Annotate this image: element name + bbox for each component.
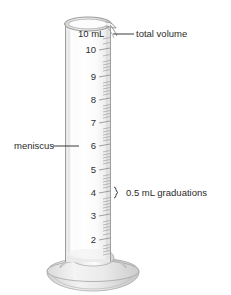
annotation-total-volume: total volume — [136, 29, 187, 39]
grad-label-8: 8 — [74, 95, 96, 105]
grad-label-9: 9 — [74, 72, 96, 82]
grad-label-3: 3 — [74, 211, 96, 221]
grad-label-5: 5 — [74, 165, 96, 175]
grad-label-7: 7 — [74, 118, 96, 128]
graduations-brace-icon — [114, 187, 118, 198]
grad-label-4: 4 — [74, 188, 96, 198]
annotation-graduations: 0.5 mL graduations — [126, 188, 207, 198]
diagram-canvas: 10 mL total volume meniscus 0.5 mL gradu… — [0, 0, 231, 295]
annotation-meniscus: meniscus — [14, 141, 54, 151]
capacity-label: 10 mL — [78, 29, 104, 39]
grad-label-2: 2 — [74, 235, 96, 245]
grad-label-6: 6 — [74, 141, 96, 151]
grad-label-10: 10 — [74, 45, 96, 55]
